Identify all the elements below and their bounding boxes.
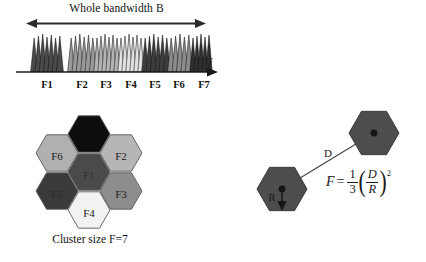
formula-coefficient-fraction: 1 3 bbox=[347, 168, 357, 195]
cluster-cell-label-f3: F3 bbox=[115, 188, 127, 200]
frequency-band-label-f4: F4 bbox=[125, 79, 137, 90]
hexagon-cluster-grid: F7F6F2F1F5F3F4 bbox=[14, 105, 164, 233]
formula-equals: = bbox=[337, 174, 345, 190]
bandwidth-label: Whole bandwidth B bbox=[14, 2, 219, 14]
frequency-axis-symbol: f bbox=[208, 56, 213, 68]
spectrum-figure: Whole bandwidth B f F1F2F3F4F5F6F7 bbox=[14, 2, 219, 98]
formula-ratio-fraction: D R bbox=[366, 168, 379, 195]
formula-ratio-numerator: D bbox=[366, 168, 379, 181]
formula-paren-open: ( bbox=[358, 166, 365, 196]
cluster-cell-label-f5: F5 bbox=[51, 188, 63, 200]
frequency-band-label-f1: F1 bbox=[41, 79, 53, 90]
spectrum-plot: f bbox=[14, 28, 219, 78]
frequency-band-label-f7: F7 bbox=[198, 79, 210, 90]
distance-label: D bbox=[324, 147, 332, 159]
formula-exponent: 2 bbox=[387, 168, 391, 178]
cluster-cell-label-f6: F6 bbox=[51, 150, 63, 162]
frequency-band-label-f2: F2 bbox=[76, 79, 88, 90]
reuse-factor-formula: F = 1 3 ( D R ) 2 bbox=[326, 167, 391, 197]
cluster-size-caption: Cluster size F=7 bbox=[14, 233, 166, 245]
formula-paren-close: ) bbox=[379, 166, 386, 196]
cluster-cell-label-f1: F1 bbox=[83, 169, 95, 181]
formula-lhs: F bbox=[326, 174, 335, 190]
formula-coefficient-denominator: 3 bbox=[347, 182, 357, 196]
frequency-band-labels: F1F2F3F4F5F6F7 bbox=[14, 78, 219, 94]
cluster-cell-label-f4: F4 bbox=[83, 207, 95, 219]
formula-ratio-denominator: R bbox=[366, 182, 378, 196]
radius-label: R bbox=[268, 191, 276, 203]
cluster-cell-label-f2: F2 bbox=[115, 150, 127, 162]
frequency-band-label-f6: F6 bbox=[173, 79, 185, 90]
formula-coefficient-numerator: 1 bbox=[347, 168, 357, 181]
frequency-axis-arrow-icon bbox=[207, 68, 218, 77]
reuse-cell-upper-right-center-dot bbox=[371, 130, 378, 137]
cluster-figure: F7F6F2F1F5F3F4 Cluster size F=7 bbox=[14, 105, 174, 255]
frequency-band-label-f5: F5 bbox=[149, 79, 161, 90]
reuse-distance-figure: R D F = 1 3 ( D R ) 2 bbox=[228, 105, 426, 255]
frequency-band-label-f3: F3 bbox=[100, 79, 112, 90]
cluster-cell-label-f7: F7 bbox=[83, 131, 95, 143]
